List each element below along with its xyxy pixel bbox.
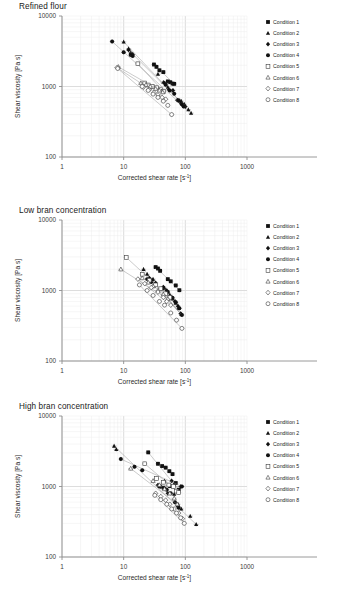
svg-text:Corrected shear rate [s-1]: Corrected shear rate [s-1] (118, 378, 192, 386)
svg-text:Condition 3: Condition 3 (273, 245, 299, 251)
svg-text:Condition 7: Condition 7 (273, 486, 299, 492)
plot-area: 1101001000100100010000Corrected shear ra… (0, 0, 342, 204)
svg-text:Condition 1: Condition 1 (273, 419, 299, 425)
svg-text:Condition 4: Condition 4 (273, 256, 299, 262)
svg-text:1: 1 (60, 367, 64, 374)
svg-text:100: 100 (180, 563, 191, 570)
svg-text:100: 100 (45, 553, 56, 560)
svg-text:Condition 7: Condition 7 (273, 86, 299, 92)
svg-text:100: 100 (180, 367, 191, 374)
svg-text:100: 100 (45, 153, 56, 160)
svg-text:Shear viscosity [Pa s]: Shear viscosity [Pa s] (14, 455, 22, 518)
chart-panel: High bran concentration 1101001000100100… (0, 400, 342, 606)
svg-text:1000: 1000 (240, 163, 255, 170)
svg-text:100: 100 (45, 357, 56, 364)
svg-text:Condition 4: Condition 4 (273, 452, 299, 458)
chart-panel: Refined flour 1101001000100100010000Corr… (0, 0, 342, 204)
figure-root: Refined flour 1101001000100100010000Corr… (0, 0, 342, 606)
svg-text:Condition 3: Condition 3 (273, 441, 299, 447)
svg-text:Condition 3: Condition 3 (273, 41, 299, 47)
svg-text:Condition 8: Condition 8 (273, 497, 299, 503)
svg-text:10: 10 (120, 367, 128, 374)
chart-panel: Low bran concentration 11010010001001000… (0, 204, 342, 400)
svg-text:Condition 8: Condition 8 (273, 301, 299, 307)
svg-text:Condition 5: Condition 5 (273, 463, 299, 469)
svg-text:1000: 1000 (240, 563, 255, 570)
svg-text:10: 10 (120, 563, 128, 570)
svg-text:Condition 1: Condition 1 (273, 19, 299, 25)
svg-text:Condition 5: Condition 5 (273, 63, 299, 69)
svg-text:Shear viscosity [Pa s]: Shear viscosity [Pa s] (14, 55, 22, 118)
plot-area: 1101001000100100010000Corrected shear ra… (0, 400, 342, 606)
svg-text:10000: 10000 (38, 12, 56, 19)
svg-text:1000: 1000 (240, 367, 255, 374)
svg-text:1000: 1000 (42, 287, 57, 294)
svg-text:Condition 4: Condition 4 (273, 52, 299, 58)
svg-text:100: 100 (180, 163, 191, 170)
svg-text:10: 10 (120, 163, 128, 170)
svg-text:Condition 6: Condition 6 (273, 475, 299, 481)
svg-text:Condition 6: Condition 6 (273, 279, 299, 285)
svg-text:10000: 10000 (38, 412, 56, 419)
svg-text:1000: 1000 (42, 83, 57, 90)
svg-text:Condition 6: Condition 6 (273, 75, 299, 81)
svg-text:Condition 2: Condition 2 (273, 430, 299, 436)
svg-text:Condition 5: Condition 5 (273, 267, 299, 273)
svg-text:1: 1 (60, 563, 64, 570)
svg-text:Condition 1: Condition 1 (273, 223, 299, 229)
plot-area: 1101001000100100010000Corrected shear ra… (0, 204, 342, 400)
svg-text:Condition 8: Condition 8 (273, 97, 299, 103)
svg-text:Condition 7: Condition 7 (273, 290, 299, 296)
svg-text:Corrected shear rate [s-1]: Corrected shear rate [s-1] (118, 174, 192, 182)
svg-text:Condition 2: Condition 2 (273, 30, 299, 36)
svg-text:Shear viscosity [Pa s]: Shear viscosity [Pa s] (14, 259, 22, 322)
svg-text:1000: 1000 (42, 483, 57, 490)
svg-text:10000: 10000 (38, 216, 56, 223)
svg-text:1: 1 (60, 163, 64, 170)
svg-text:Corrected shear rate [s-1]: Corrected shear rate [s-1] (118, 574, 192, 582)
svg-text:Condition 2: Condition 2 (273, 234, 299, 240)
